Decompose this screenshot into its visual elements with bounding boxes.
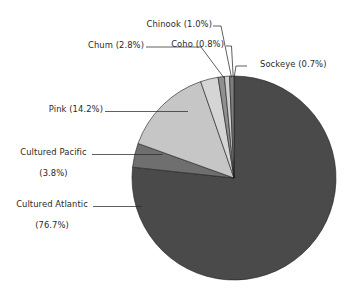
leader-line-sockeye bbox=[234, 66, 247, 77]
label-pink-text: Pink (14.2%) bbox=[49, 104, 103, 114]
label-chinook-text: Chinook (1.0%) bbox=[146, 19, 212, 29]
label-cultured-pacific-line1: Cultured Pacific bbox=[20, 147, 86, 157]
leader-line-coho bbox=[226, 46, 233, 77]
label-cultured-pacific: Cultured Pacific (3.8%) bbox=[6, 136, 90, 189]
label-cultured-pacific-line2: (3.8%) bbox=[39, 168, 67, 178]
label-cultured-atlantic-line1: Cultured Atlantic bbox=[16, 199, 88, 209]
label-chum: Chum (2.8%) bbox=[52, 29, 144, 61]
label-sockeye: Sockeye (0.7%) bbox=[249, 48, 349, 80]
label-cultured-atlantic: Cultured Atlantic (76.7%) bbox=[2, 188, 91, 241]
label-cultured-atlantic-line2: (76.7%) bbox=[35, 220, 69, 230]
pie-chart: Chinook (1.0%) Coho (0.8%) Sockeye (0.7%… bbox=[0, 0, 356, 297]
label-sockeye-text: Sockeye (0.7%) bbox=[260, 59, 327, 69]
label-pink: Pink (14.2%) bbox=[14, 93, 103, 125]
label-coho-text: Coho (0.8%) bbox=[171, 39, 224, 49]
pie-slices bbox=[132, 76, 336, 280]
label-chum-text: Chum (2.8%) bbox=[88, 40, 144, 50]
label-coho: Coho (0.8%) bbox=[140, 28, 224, 60]
